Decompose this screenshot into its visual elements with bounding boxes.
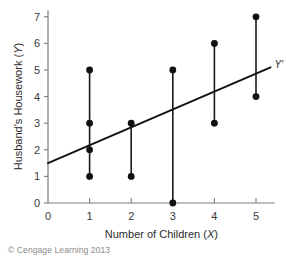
data-point — [86, 146, 93, 153]
data-point — [86, 67, 93, 74]
data-point — [128, 173, 135, 180]
regression-line-segment — [48, 67, 271, 163]
y-tick-label: 7 — [34, 11, 40, 23]
copyright-credit: © Cengage Learning 2013 — [8, 245, 110, 255]
x-tick-label: 0 — [45, 210, 51, 222]
axes-group — [48, 10, 275, 203]
x-axis-tick-labels: 012345 — [45, 210, 259, 222]
plot-canvas: 01234567 012345 Y′ Number of Children (X… — [0, 0, 295, 262]
y-tick-label: 1 — [34, 170, 40, 182]
x-axis-title: Number of Children (X) — [105, 228, 218, 240]
data-point — [169, 200, 176, 207]
data-point — [253, 13, 260, 20]
y-tick-label: 6 — [34, 37, 40, 49]
data-point — [211, 40, 218, 47]
x-tick-label: 2 — [128, 210, 134, 222]
data-point — [128, 120, 135, 127]
y-axis-tick-labels: 01234567 — [34, 11, 40, 209]
data-point — [253, 93, 260, 100]
regression-line — [48, 67, 271, 163]
x-tick-label: 1 — [87, 210, 93, 222]
y-tick-label: 5 — [34, 64, 40, 76]
y-tick-label: 3 — [34, 117, 40, 129]
data-point — [86, 173, 93, 180]
y-tick-label: 0 — [34, 197, 40, 209]
y-axis-title: Husband's Housework (Y) — [12, 43, 24, 170]
x-tick-label: 3 — [170, 210, 176, 222]
y-axis-title-text: Husband's Housework — [12, 60, 24, 170]
regression-line-label: Y′ — [275, 59, 285, 70]
x-axis-title-text: Number of Children — [105, 228, 200, 240]
data-point — [86, 120, 93, 127]
y-tick-label: 2 — [34, 144, 40, 156]
regression-scatterplot-figure: 01234567 012345 Y′ Number of Children (X… — [0, 0, 295, 262]
y-tick-label: 4 — [34, 91, 40, 103]
x-tick-label: 4 — [211, 210, 217, 222]
x-tick-label: 5 — [253, 210, 259, 222]
data-point — [169, 67, 176, 74]
data-point — [211, 120, 218, 127]
